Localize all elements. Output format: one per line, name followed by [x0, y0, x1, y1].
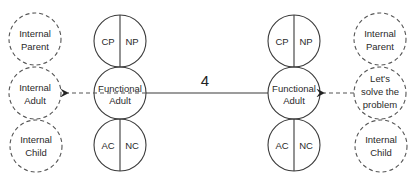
label: AC: [275, 140, 288, 151]
label: CP: [101, 36, 114, 47]
label: Internal: [19, 82, 51, 93]
label: Internal: [365, 134, 397, 145]
right-functional-child: AC NC: [268, 119, 320, 171]
label: Parent: [366, 41, 394, 52]
label: Child: [25, 147, 47, 158]
transactional-diagram: Internal Parent Internal Adult Internal …: [0, 0, 415, 187]
label: solve the: [361, 86, 399, 97]
left-functional-parent: CP NP: [94, 15, 146, 67]
label: Adult: [283, 95, 305, 106]
label: Child: [370, 147, 392, 158]
label: NC: [299, 140, 313, 151]
right-internal-adult: Let's solve the problem: [354, 67, 406, 119]
left-internal-child: Internal Child: [10, 120, 62, 172]
label: Internal: [20, 134, 52, 145]
label: Functional: [98, 83, 142, 94]
label: NC: [125, 140, 139, 151]
label: Functional: [272, 83, 316, 94]
label: problem: [363, 99, 397, 110]
left-internal-parent: Internal Parent: [9, 13, 61, 65]
left-functional-child: AC NC: [94, 119, 146, 171]
label: Let's: [370, 73, 390, 84]
label: Adult: [109, 95, 131, 106]
right-internal-parent: Internal Parent: [354, 13, 406, 65]
right-functional-parent: CP NP: [268, 15, 320, 67]
connector-label: 4: [201, 72, 209, 89]
label: Adult: [24, 95, 46, 106]
right-functional-adult: Functional Adult: [268, 67, 320, 119]
label: AC: [101, 140, 114, 151]
label: NP: [125, 36, 138, 47]
label: Internal: [364, 28, 396, 39]
left-internal-adult: Internal Adult: [9, 67, 61, 119]
label: CP: [275, 36, 288, 47]
right-internal-child: Internal Child: [355, 120, 407, 172]
label: Parent: [21, 41, 49, 52]
label: NP: [299, 36, 312, 47]
label: Internal: [19, 28, 51, 39]
